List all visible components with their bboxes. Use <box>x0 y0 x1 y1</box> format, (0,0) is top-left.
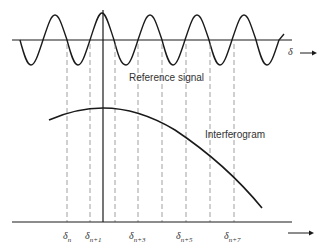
delta-axis-label: δ <box>288 46 293 57</box>
interferogram-curve <box>49 108 262 208</box>
sample-label-n3: δn+3 <box>129 230 145 244</box>
sample-label-n1: δn+1 <box>85 230 101 244</box>
reference-signal-label: Reference signal <box>129 72 204 83</box>
interferogram-sampling-diagram <box>0 0 334 248</box>
interferogram-label: Interferogram <box>205 129 265 140</box>
bottom-arrow-head <box>309 231 314 236</box>
reference-signal-wave <box>20 13 284 65</box>
sample-label-n5: δn+5 <box>176 230 192 244</box>
sample-label-n7: δn+7 <box>224 230 240 244</box>
delta-arrow-head <box>312 51 317 56</box>
sample-label-n: δn <box>63 230 71 244</box>
